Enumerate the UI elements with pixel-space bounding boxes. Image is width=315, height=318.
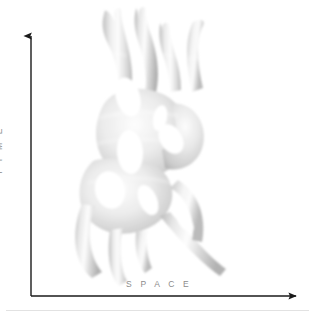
x-axis-label: S P A C E bbox=[126, 279, 192, 289]
figure-container: S P A C E T I M E bbox=[0, 0, 315, 318]
plot-canvas bbox=[0, 0, 315, 318]
y-axis-label: T I M E bbox=[0, 125, 4, 175]
footer-divider bbox=[6, 310, 309, 311]
organic-branching-form bbox=[75, 7, 226, 286]
